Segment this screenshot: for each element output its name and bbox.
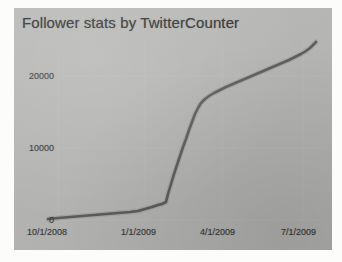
data-line <box>48 42 316 219</box>
data-line-halo <box>48 42 316 219</box>
grid-lines <box>58 42 326 220</box>
xtick-label-10-1-2008: 10/1/2008 <box>27 227 67 237</box>
plot-area <box>14 8 332 250</box>
ytick-label-10000: 10000 <box>16 143 54 153</box>
ytick-label-20000: 20000 <box>16 71 54 81</box>
ytick-label-0: 0 <box>16 215 54 225</box>
xtick-label-1-1-2009: 1/1/2009 <box>121 227 156 237</box>
plot-svg <box>14 8 332 250</box>
xtick-label-7-1-2009: 7/1/2009 <box>281 227 316 237</box>
xtick-label-4-1-2009: 4/1/2009 <box>200 227 235 237</box>
scanned-page: Follower stats by TwitterCounter <box>0 0 342 262</box>
chart-panel: Follower stats by TwitterCounter <box>14 8 332 250</box>
